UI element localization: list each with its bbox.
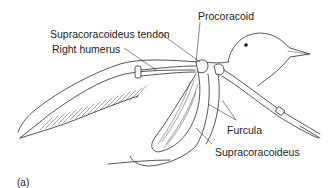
bird-head-outline [228, 33, 310, 86]
label-supracoracoideus: Supracoracoideus [215, 147, 300, 158]
bird-eye-icon [244, 43, 248, 47]
wing-feathers [40, 86, 146, 130]
upper-wing-outline [18, 60, 198, 132]
leader-procoracoid [196, 22, 200, 62]
label-furcula: Furcula [227, 125, 262, 136]
humerus-joint [135, 66, 141, 78]
bird-flight-anatomy-diagram: Supracoracoideus tendon Right humerus Pr… [0, 0, 333, 188]
leader-furcula-2 [222, 100, 236, 120]
panel-label: (a) [17, 178, 29, 188]
leader-furcula-1 [208, 104, 236, 120]
label-procoracoid: Procoracoid [198, 11, 254, 22]
label-right-humerus: Right humerus [52, 44, 120, 55]
label-supracoracoideus-tendon: Supracoracoideus tendon [50, 29, 170, 40]
